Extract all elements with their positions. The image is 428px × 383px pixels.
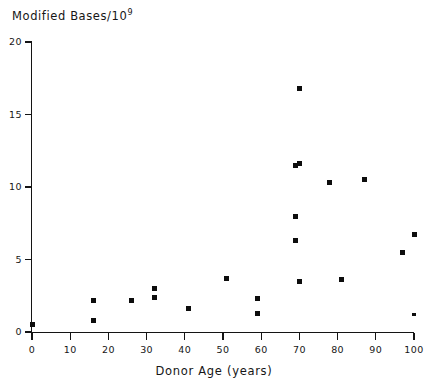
- data-point: [297, 279, 302, 284]
- data-point: [91, 298, 96, 303]
- y-tick-label-15: 15: [0, 109, 22, 120]
- data-point: [129, 298, 134, 303]
- y-tick-label-5: 5: [0, 254, 22, 265]
- y-tick-10: [25, 186, 32, 187]
- data-point: [152, 286, 157, 291]
- data-point: [224, 276, 229, 281]
- x-tick-50: [222, 333, 223, 340]
- data-point: [293, 214, 298, 219]
- x-tick-80: [337, 333, 338, 340]
- x-tick-label-70: 70: [284, 344, 314, 355]
- data-point: [30, 322, 35, 327]
- data-point: [152, 295, 157, 300]
- y-axis-title-text: Modified Bases/10: [12, 9, 127, 23]
- y-tick-20: [25, 41, 32, 42]
- data-point: [255, 296, 260, 301]
- x-tick-label-60: 60: [246, 344, 276, 355]
- y-axis-title-exponent: 9: [127, 8, 132, 17]
- x-tick-100: [413, 333, 414, 340]
- x-tick-40: [184, 333, 185, 340]
- y-tick-label-20: 20: [0, 36, 22, 47]
- data-point: [255, 311, 260, 316]
- data-point: [186, 306, 191, 311]
- x-tick-label-10: 10: [55, 344, 85, 355]
- x-tick-10: [70, 333, 71, 340]
- x-tick-60: [261, 333, 262, 340]
- data-point: [297, 86, 302, 91]
- x-tick-label-100: 100: [399, 344, 428, 355]
- scatter-plot-figure: Modified Bases/109 05101520 010203040506…: [0, 0, 428, 383]
- y-tick-5: [25, 259, 32, 260]
- x-tick-20: [108, 333, 109, 340]
- x-tick-label-0: 0: [17, 344, 47, 355]
- data-point: [412, 313, 415, 316]
- x-tick-label-40: 40: [170, 344, 200, 355]
- data-point: [412, 232, 417, 237]
- x-tick-0: [31, 333, 32, 340]
- x-tick-label-80: 80: [323, 344, 353, 355]
- data-point: [400, 250, 405, 255]
- x-tick-70: [299, 333, 300, 340]
- x-tick-label-50: 50: [208, 344, 238, 355]
- y-tick-label-0: 0: [0, 326, 22, 337]
- data-point: [362, 177, 367, 182]
- x-tick-30: [146, 333, 147, 340]
- x-tick-label-90: 90: [361, 344, 391, 355]
- y-tick-label-10: 10: [0, 181, 22, 192]
- data-point: [293, 238, 298, 243]
- plot-area: [32, 42, 414, 332]
- x-tick-label-30: 30: [132, 344, 162, 355]
- data-point: [91, 318, 96, 323]
- y-axis-title: Modified Bases/109: [12, 8, 133, 23]
- x-tick-label-20: 20: [93, 344, 123, 355]
- x-axis-title: Donor Age (years): [0, 364, 428, 378]
- data-point: [297, 161, 302, 166]
- x-tick-90: [375, 333, 376, 340]
- data-point: [327, 180, 332, 185]
- y-tick-15: [25, 114, 32, 115]
- data-point: [339, 277, 344, 282]
